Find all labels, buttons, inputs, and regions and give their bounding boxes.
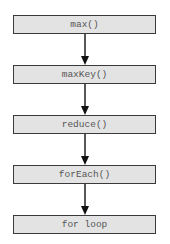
node-for-loop: for loop [13, 215, 156, 234]
node-label: maxKey() [62, 69, 108, 80]
arrow-down-icon [84, 184, 86, 215]
node-max: max() [13, 15, 156, 34]
arrow-down-icon [84, 134, 86, 165]
node-label: forEach() [59, 169, 110, 180]
arrow-down-icon [84, 34, 86, 65]
node-reduce: reduce() [13, 115, 156, 134]
node-label: reduce() [62, 119, 108, 130]
node-label: for loop [62, 219, 108, 230]
node-label: max() [70, 19, 99, 30]
node-foreach: forEach() [13, 165, 156, 184]
arrow-down-icon [84, 84, 86, 115]
node-maxkey: maxKey() [13, 65, 156, 84]
